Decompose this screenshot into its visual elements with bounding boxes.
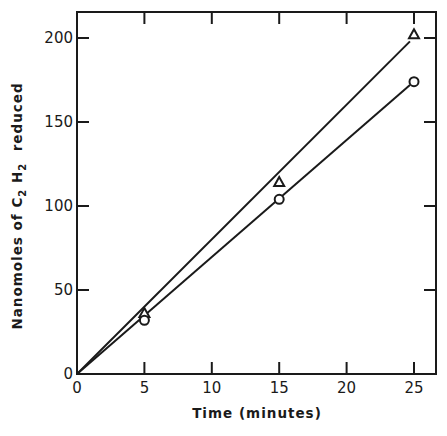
y-tick-label: 50 [54, 281, 73, 299]
triangle-marker [409, 29, 419, 38]
circle-fit-line [77, 85, 410, 374]
chart: 0510152025 050100150200 Time (minutes) N… [0, 0, 447, 436]
circle-marker [275, 195, 284, 204]
x-tick-label: 15 [270, 379, 289, 397]
triangle-marker [274, 177, 284, 186]
y-axis-title-sub1: 2 [17, 189, 28, 197]
circle-marker [140, 316, 149, 325]
y-tick-label: 100 [44, 197, 73, 215]
y-axis-title-post: reduced [9, 82, 25, 162]
y-tick-labels: 050100150200 [44, 29, 73, 383]
circle-marker [410, 77, 419, 86]
x-axis-title: Time (minutes) [192, 405, 322, 421]
y-axis-title-sub2: 2 [17, 163, 28, 171]
y-tick-label: 0 [63, 365, 73, 383]
x-tick-label: 25 [404, 379, 423, 397]
x-tick-label: 5 [140, 379, 150, 397]
x-tick-label: 0 [72, 379, 82, 397]
x-tick-label: 10 [202, 379, 221, 397]
y-tick-label: 150 [44, 113, 73, 131]
x-tick-labels: 0510152025 [72, 379, 423, 397]
y-axis-title-mid: H [9, 171, 25, 189]
y-axis-title-pre: Nanomoles of C [9, 197, 25, 330]
triangle-fit-line [77, 41, 410, 374]
y-tick-label: 200 [44, 29, 73, 47]
fit-lines [77, 41, 410, 374]
y-axis-title: Nanomoles of C2 H2 reduced [9, 82, 28, 329]
x-tick-label: 20 [337, 379, 356, 397]
